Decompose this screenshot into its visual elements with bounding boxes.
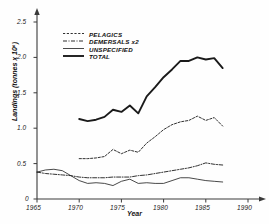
y-tick-label-0: 0 [25,195,29,202]
legend-label-total: TOTAL [89,53,110,60]
legend-label-demersals: DEMERSALS x2 [89,38,139,45]
axis-lines [34,8,266,202]
y-tick-label-1_5: 1.5 [17,89,26,96]
y-tick-label-0_5: 0.5 [17,160,26,167]
series-line-total [79,57,222,121]
legend-swatches [63,34,84,57]
data-series-layer [37,57,223,185]
y-axis-title: Landings (tonnes x 10⁶) [11,32,18,132]
figure-container: 2.5 2.0 1.5 1.0 0.5 0 1965 1970 1975 198… [0,0,269,224]
chart-plot-area [0,0,269,224]
y-tick-label-2_5: 2.5 [17,18,26,25]
y-tick-label-1_0: 1.0 [17,124,26,131]
y-tick-label-2_0: 2.0 [17,53,26,60]
series-line-unspecified [37,169,223,185]
series-line-demersals-x2 [37,163,223,178]
series-line-pelagics [79,116,222,158]
x-axis-title: Year [0,210,269,217]
legend-label-pelagics: PELAGICS [89,31,122,38]
legend-label-unspecified: UNSPECIFIED [89,46,133,53]
